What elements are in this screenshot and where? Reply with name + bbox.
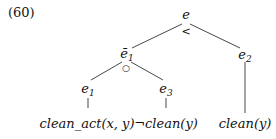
precedence-operator: < [181, 25, 190, 38]
leaf-not-clean: ¬clean(y) [134, 117, 198, 131]
node-e1: e1 [81, 82, 94, 100]
composition-operator: ○ [122, 63, 130, 73]
node-root: e [182, 8, 190, 22]
node-e2: e2 [238, 48, 251, 66]
node-e3: e3 [159, 82, 172, 100]
leaf-clean: clean(y) [219, 117, 272, 131]
leaf-clean-act: clean_act(x, y) [39, 117, 134, 131]
example-number: (60) [8, 5, 35, 20]
